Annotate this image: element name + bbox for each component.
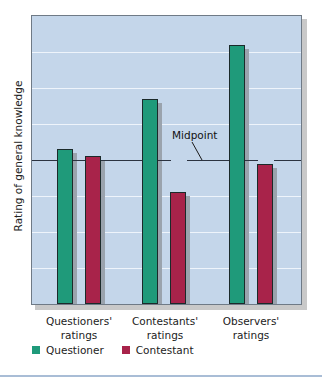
midpoint-line [245, 160, 258, 161]
bar-shadow [245, 49, 249, 304]
bar-shadow [186, 196, 190, 304]
midpoint-line [73, 160, 85, 161]
gridline [32, 124, 301, 125]
bar-shadow [73, 153, 77, 304]
x-category-line: ratings [206, 328, 296, 342]
midpoint-line [32, 160, 57, 161]
midpoint-line [158, 160, 171, 161]
x-category-observers: Observers' ratings [206, 314, 296, 342]
legend-label: Contestant [136, 344, 194, 356]
bar-contestant-1 [170, 192, 186, 304]
x-category-questioners: Questioners' ratings [34, 314, 124, 342]
legend-swatch-contestant [122, 346, 130, 354]
bar-questioner-1 [142, 99, 158, 304]
x-category-line: Contestants' [120, 314, 210, 328]
x-category-line: Observers' [206, 314, 296, 328]
legend-item-contestant: Contestant [122, 344, 194, 356]
bar-contestant-0 [85, 156, 101, 304]
midpoint-label: Midpoint [172, 129, 217, 141]
x-category-line: ratings [34, 328, 124, 342]
gridline [32, 88, 301, 89]
x-category-contestants: Contestants' ratings [120, 314, 210, 342]
legend-swatch-questioner [32, 346, 40, 354]
bar-contestant-2 [257, 164, 273, 304]
bar-shadow [158, 103, 162, 304]
x-category-line: Questioners' [34, 314, 124, 328]
plot-area: Midpoint [31, 15, 302, 305]
bar-shadow [101, 160, 105, 304]
midpoint-line [101, 160, 142, 161]
midpoint-line [274, 160, 301, 161]
legend: Questioner Contestant [32, 344, 212, 356]
bar-questioner-2 [229, 45, 245, 304]
legend-item-questioner: Questioner [32, 344, 104, 356]
y-axis-label: Rating of general knowledge [12, 81, 24, 232]
legend-label: Questioner [46, 344, 104, 356]
bar-shadow [273, 168, 277, 304]
gridline [32, 52, 301, 53]
midpoint-leader-line [190, 142, 210, 164]
bar-questioner-0 [57, 149, 73, 304]
x-category-line: ratings [120, 328, 210, 342]
